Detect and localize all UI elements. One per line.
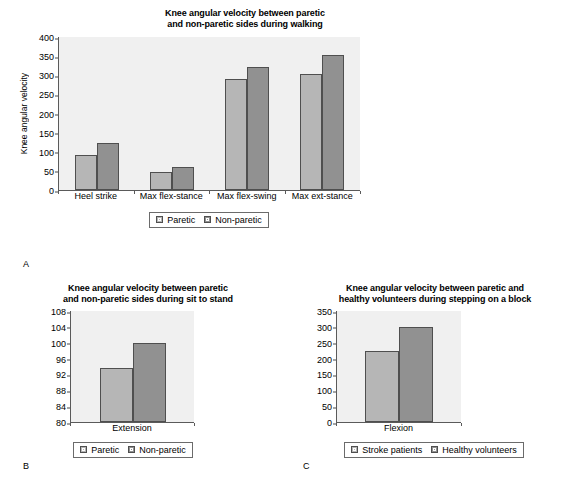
chart-a-ytick: 0 [49,187,54,196]
chart-b-legend-item[interactable]: Paretic [80,445,119,455]
chart-b-title-line-1: Knee angular velocity between paretic [22,283,274,294]
chart-c-ytick: 50 [322,403,332,412]
chart-b-legend-item[interactable]: Non-paretic [128,445,186,455]
chart-panel-c: Knee angular velocity between paretic an… [300,283,583,458]
chart-c-legend-label: Healthy volunteers [442,445,517,455]
chart-a-legend-item[interactable]: Paretic [156,215,195,225]
chart-c-y-axis: 050100150200250300350 [310,311,336,423]
chart-panel-a: Knee angular velocity between paretic an… [0,8,583,228]
chart-a-plot-area [58,37,360,191]
chart-a-ytick: 350 [39,53,54,62]
chart-a-bar-group [59,37,134,190]
chart-c-legend-item[interactable]: Stroke patients [351,445,422,455]
chart-b-y-axis: 8084889296100104108 [44,311,70,423]
chart-a-bar [172,167,194,190]
chart-a-ylabel-wrap: Knee angular velocity [16,37,32,191]
chart-c-ytick: 300 [317,323,332,332]
chart-c-xtick-mark [336,423,337,426]
chart-a-ytick: 200 [39,110,54,119]
chart-b-xtick-label: Extension [70,423,194,434]
chart-b-plot-area [70,311,194,423]
chart-a-xtick-mark [58,191,59,194]
chart-c-ytick: 250 [317,339,332,348]
legend-swatch-icon [351,446,358,453]
chart-a-x-axis: Heel strikeMax flex-stanceMax flex-swing… [58,191,360,202]
chart-a-legend-wrap: PareticNon-paretic [58,209,360,228]
chart-a-xtick-label: Max flex-stance [134,191,210,202]
chart-c-legend: Stroke patientsHealthy volunteers [344,442,524,458]
chart-panel-b: Knee angular velocity between paretic an… [22,283,292,458]
chart-b-legend-wrap: PareticNon-paretic [48,439,218,458]
legend-swatch-icon [80,446,87,453]
chart-b-legend-label: Non-paretic [139,445,186,455]
chart-b-x-axis: Extension [70,423,194,434]
chart-b-plot-row: 8084889296100104108 [44,311,292,423]
chart-a-bar [247,67,269,190]
chart-a-title-line-2: and non-paretic sides during walking [30,19,460,30]
chart-b-ytick: 108 [51,308,66,317]
chart-c-ytick: 350 [317,308,332,317]
chart-c-ytick: 200 [317,355,332,364]
chart-a-bar [97,143,119,190]
chart-c-xtick-mark [461,423,462,426]
chart-a-xtick-mark [134,191,135,194]
chart-c-bar-group [337,311,461,422]
chart-b-title-line-2: and non-paretic sides during sit to stan… [22,294,274,305]
chart-a-xtick-mark [360,191,361,194]
chart-c-xtick-label: Flexion [336,423,461,434]
chart-a-bar [225,79,247,190]
chart-b-ytick: 96 [56,355,66,364]
chart-b-bar [100,368,133,422]
panel-letter-b: B [23,461,29,471]
chart-a-xtick-mark [209,191,210,194]
chart-c-plot-area [336,311,461,423]
chart-a-ytick: 150 [39,129,54,138]
chart-a-ylabel: Knee angular velocity [19,73,29,154]
chart-c-legend-wrap: Stroke patientsHealthy volunteers [314,439,554,458]
chart-c-title: Knee angular velocity between paretic an… [300,283,570,305]
chart-a-bar [75,155,97,190]
panel-letter-a: A [23,259,29,269]
chart-b-bar [133,343,166,422]
chart-c-bar [399,327,433,422]
chart-c-plot-row: 050100150200250300350 [310,311,583,423]
chart-a-bar [150,172,172,190]
chart-a-title-line-1: Knee angular velocity between paretic [30,8,460,19]
chart-a-ytick: 300 [39,72,54,81]
chart-a-legend: PareticNon-paretic [149,212,269,228]
chart-c-legend-item[interactable]: Healthy volunteers [431,445,517,455]
chart-b-ytick: 92 [56,371,66,380]
chart-c-bar [365,351,399,422]
chart-b-legend-label: Paretic [91,445,119,455]
chart-a-legend-label: Paretic [167,215,195,225]
chart-a-plot-row: Knee angular velocity 050100150200250300… [16,37,583,191]
chart-b-xtick-mark [194,423,195,426]
legend-swatch-icon [128,446,135,453]
chart-c-x-axis: Flexion [336,423,461,434]
chart-a-ytick: 250 [39,91,54,100]
chart-b-legend: PareticNon-paretic [73,442,193,458]
chart-a-legend-item[interactable]: Non-paretic [204,215,262,225]
chart-c-legend-label: Stroke patients [362,445,422,455]
chart-c-ytick: 150 [317,371,332,380]
chart-b-ytick: 100 [51,339,66,348]
chart-b-ytick: 88 [56,387,66,396]
chart-a-ytick: 400 [39,34,54,43]
chart-b-ytick: 104 [51,323,66,332]
chart-a-bar [322,55,344,190]
chart-a-title: Knee angular velocity between paretic an… [30,8,460,30]
chart-c-ytick: 100 [317,387,332,396]
legend-swatch-icon [204,216,211,223]
chart-b-bars [71,311,194,422]
legend-swatch-icon [156,216,163,223]
chart-a-bar [300,74,322,190]
chart-a-xtick-mark [285,191,286,194]
chart-b-title: Knee angular velocity between paretic an… [22,283,274,305]
chart-c-title-line-1: Knee angular velocity between paretic an… [300,283,570,294]
chart-a-xtick-label: Heel strike [58,191,134,202]
chart-c-bars [337,311,461,422]
chart-a-ytick: 50 [44,167,54,176]
chart-a-bar-group [285,37,360,190]
chart-c-title-line-2: healthy volunteers during stepping on a … [300,294,570,305]
chart-a-xtick-label: Max flex-swing [209,191,285,202]
